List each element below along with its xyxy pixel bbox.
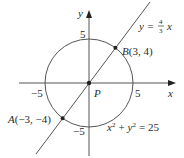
tick-y-neg: −5 xyxy=(73,125,85,137)
point-b-label: B(3, 4) xyxy=(122,45,153,58)
line-eq-lhs: y = xyxy=(138,20,154,32)
x-axis-arrow-icon xyxy=(168,80,176,86)
y-axis-label: y xyxy=(77,7,83,19)
line-eq-frac-den: 3 xyxy=(159,27,163,35)
x-axis-label: x xyxy=(167,87,173,99)
circle-line-diagram: y x P 5 5 −5 −5 y = 4 3 x B(3, 4) A(−3, … xyxy=(0,0,184,158)
point-b xyxy=(113,46,117,50)
line-eq-var: x xyxy=(166,20,172,32)
line-eq-frac-num: 4 xyxy=(159,18,163,26)
point-a-label: A(−3, −4) xyxy=(7,113,51,126)
origin-label: P xyxy=(93,87,101,99)
point-a xyxy=(61,116,65,120)
tick-y-pos: 5 xyxy=(80,28,86,40)
tick-x-pos: 5 xyxy=(135,87,141,99)
y-axis-arrow-icon xyxy=(86,10,92,18)
point-p xyxy=(87,81,91,85)
tick-x-neg: −5 xyxy=(31,87,43,99)
circle-equation: x2+y2= 25 xyxy=(106,121,159,133)
